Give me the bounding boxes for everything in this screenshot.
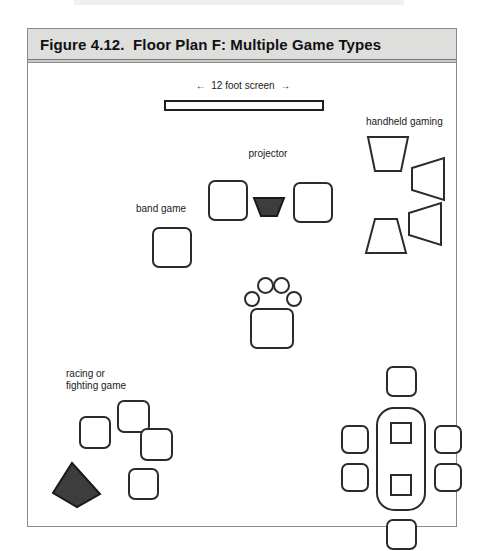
band-game-station-3 (152, 227, 192, 268)
racing-seat-4 (128, 468, 159, 500)
handheld-seat-trapezoid-3 (407, 201, 443, 247)
drum-circle-1 (257, 277, 274, 294)
racing-fighting-game-label: racing orfighting game (66, 368, 126, 392)
figure-title: Figure 4.12. Floor Plan F: Multiple Game… (40, 36, 381, 53)
figure-header-rule (28, 60, 456, 63)
drum-circle-4 (286, 291, 302, 307)
projection-screen (164, 100, 324, 111)
table-seat-left-lower (341, 463, 369, 492)
racing-seat-2 (79, 416, 111, 449)
band-game-label: band game (136, 203, 186, 215)
band-game-station-1 (208, 180, 248, 221)
table-seat-left-upper (341, 425, 369, 454)
projector-label: projector (218, 148, 318, 160)
racing-fighting-line-2: fighting game (66, 380, 126, 391)
band-game-station-2 (293, 182, 333, 223)
drum-circle-2 (273, 277, 290, 294)
handheld-seat-trapezoid-2 (410, 156, 446, 202)
handheld-gaming-label: handheld gaming (366, 116, 443, 128)
screen-label: ← 12 foot screen → (158, 80, 328, 92)
table-square-2 (390, 474, 412, 496)
table-seat-top (386, 366, 417, 397)
racing-filled-quad (50, 460, 102, 510)
racing-seat-3 (140, 428, 173, 461)
racing-fighting-line-1: racing or (66, 368, 105, 379)
handheld-seat-trapezoid-1 (366, 134, 410, 174)
table-seat-right-lower (434, 463, 462, 492)
handheld-seat-trapezoid-4 (364, 216, 408, 256)
table-seat-right-upper (434, 425, 462, 454)
figure-frame: Figure 4.12. Floor Plan F: Multiple Game… (27, 28, 457, 527)
band-game-drum-platform (250, 308, 294, 349)
scan-artifact-strip (74, 0, 404, 5)
table-seat-bottom (386, 519, 417, 550)
projector-shape (252, 196, 286, 218)
drum-circle-3 (244, 291, 260, 307)
floor-plan-canvas: ← 12 foot screen → handheld gaming proje… (28, 64, 456, 526)
table-square-1 (390, 422, 412, 444)
